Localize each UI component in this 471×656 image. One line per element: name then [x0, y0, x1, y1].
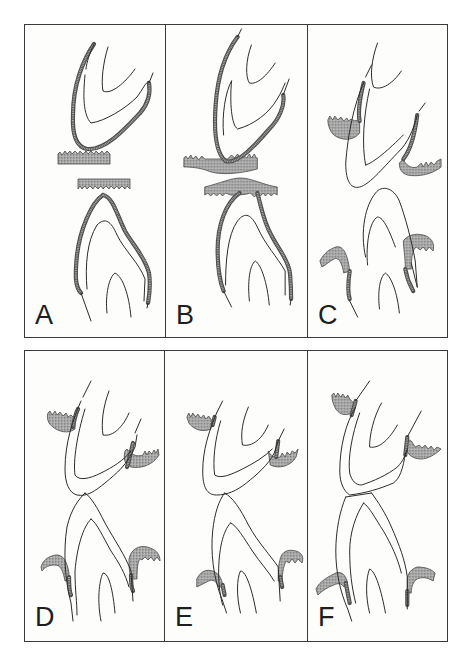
panel-e: E	[164, 351, 307, 641]
tooth-outline	[223, 81, 285, 135]
panel-a: A	[25, 25, 165, 337]
figure-row-bottom: D E F	[24, 350, 448, 642]
panel-b: B	[165, 25, 307, 337]
tooth-outline	[370, 403, 398, 447]
tooth-outline	[214, 421, 272, 477]
tooth-outline	[350, 503, 402, 603]
tooth-outline	[340, 407, 406, 495]
tooth-outline	[83, 381, 141, 433]
panel-d: D	[25, 351, 164, 641]
tooth-illustration-f	[308, 351, 449, 641]
tooth-outline	[106, 273, 131, 317]
gingiva-tissue	[407, 567, 435, 593]
panel-label-b: B	[176, 302, 194, 329]
tooth-outline	[219, 523, 275, 605]
tooth-illustration-c	[308, 25, 449, 337]
tooth-illustration-a	[25, 25, 165, 337]
figure-row-top: A B C	[24, 24, 448, 338]
gingiva-tissue	[405, 439, 441, 459]
tooth-outline	[371, 43, 401, 88]
gingiva-tissue	[78, 179, 130, 189]
gingiva-tissue	[332, 393, 354, 415]
gingiva-tissue	[58, 151, 110, 164]
panel-label-a: A	[35, 302, 53, 329]
tooth-outline	[102, 391, 129, 435]
panel-label-e: E	[175, 604, 193, 631]
tooth-outline	[379, 273, 400, 313]
gingiva-tissue	[316, 572, 348, 595]
gingiva-tissue	[399, 159, 441, 176]
tooth-illustration-e	[165, 351, 307, 641]
tooth-outline	[249, 261, 270, 305]
tooth-illustration-b	[166, 25, 307, 337]
tooth-outline	[366, 65, 426, 111]
tooth-outline	[99, 573, 115, 621]
gingiva-tissue	[268, 449, 298, 467]
tooth-outline	[86, 221, 145, 301]
tooth-outline	[349, 413, 407, 485]
tooth-outline	[356, 381, 422, 437]
epithelium-layer	[405, 269, 413, 291]
gingiva-tissue	[129, 547, 160, 580]
tooth-outline	[225, 493, 281, 601]
tooth-outline	[86, 44, 153, 83]
tooth-outline	[224, 291, 292, 307]
tooth-outline	[102, 47, 135, 92]
gingiva-tissue	[328, 116, 360, 139]
tooth-outline	[372, 493, 408, 609]
gingiva-tissue	[320, 247, 350, 273]
panel-label-c: C	[318, 302, 338, 329]
panel-label-f: F	[318, 604, 335, 631]
tooth-outline	[65, 493, 85, 621]
gingiva-tissue	[403, 234, 433, 269]
tooth-outline	[75, 519, 129, 615]
tooth-outline	[367, 569, 386, 613]
tooth-outline	[247, 45, 276, 83]
tooth-outline	[237, 29, 289, 95]
tooth-outline	[81, 293, 148, 321]
tooth-outline	[217, 401, 285, 441]
tooth-illustration-d	[25, 351, 164, 641]
tooth-outline	[242, 407, 269, 445]
tooth-outline	[226, 215, 286, 295]
panel-f: F	[307, 351, 449, 641]
tooth-outline	[237, 571, 256, 613]
panel-c: C	[307, 25, 449, 337]
panel-label-d: D	[35, 604, 55, 631]
dental-diagram-figure: A B C D E F	[0, 0, 471, 656]
gingiva-tissue	[187, 413, 213, 431]
tooth-outline	[367, 217, 395, 265]
